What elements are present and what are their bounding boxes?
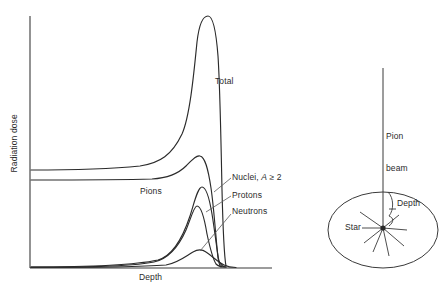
pion-beam-label-line1: Pion [386,131,408,142]
curve-nuclei [31,187,226,267]
star-label: Star [345,222,361,233]
curve-pions [31,156,221,267]
curve-label-nuclei-text: Nuclei, [232,172,261,182]
curve-label-protons: Protons [232,190,262,201]
figure-canvas [0,0,442,289]
curve-label-neutrons: Neutrons [232,206,267,217]
curve-label-pions: Pions [140,186,162,197]
depth-bracket-label: Depth [397,198,420,209]
y-axis-label: Radiation dose [9,105,20,181]
right-panel-diagram [328,68,438,268]
dose-curves [31,16,236,268]
curve-label-total: Total [215,76,233,87]
curve-label-nuclei: Nuclei, A ≥ 2 [232,172,281,183]
pion-beam-label: Pion beam [386,110,408,195]
pion-beam-label-line2: beam [386,163,408,174]
curve-label-nuclei-relation: ≥ 2 [267,172,282,182]
star-vertex [380,225,385,230]
figure-root: Radiation dose Depth Total Pions Nuclei,… [0,0,442,289]
left-panel-axes [30,16,272,268]
x-axis-label: Depth [139,272,162,283]
curve-protons [31,206,226,267]
curve-total [31,16,226,266]
